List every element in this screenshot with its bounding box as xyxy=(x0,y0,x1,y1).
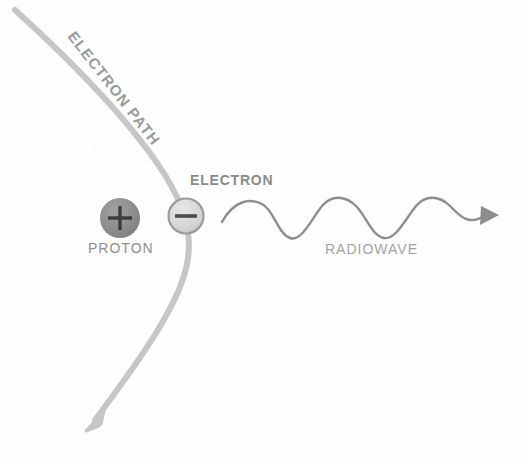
proton-label: PROTON xyxy=(88,240,154,256)
radiowave-group xyxy=(222,198,499,239)
radiowave-label: RADIOWAVE xyxy=(325,241,418,257)
electron-particle[interactable] xyxy=(169,199,204,234)
radiowave-arrowhead xyxy=(480,206,499,225)
electron-path-arrowhead xyxy=(86,411,104,431)
diagram-vector-layer xyxy=(0,0,526,463)
radiowave-sine xyxy=(222,198,484,239)
proton-particle[interactable] xyxy=(100,198,140,238)
electron-label: ELECTRON xyxy=(190,172,273,188)
diagram-canvas: ELECTRON PATH ELECTRON PROTON RADIOWAVE xyxy=(0,0,526,463)
